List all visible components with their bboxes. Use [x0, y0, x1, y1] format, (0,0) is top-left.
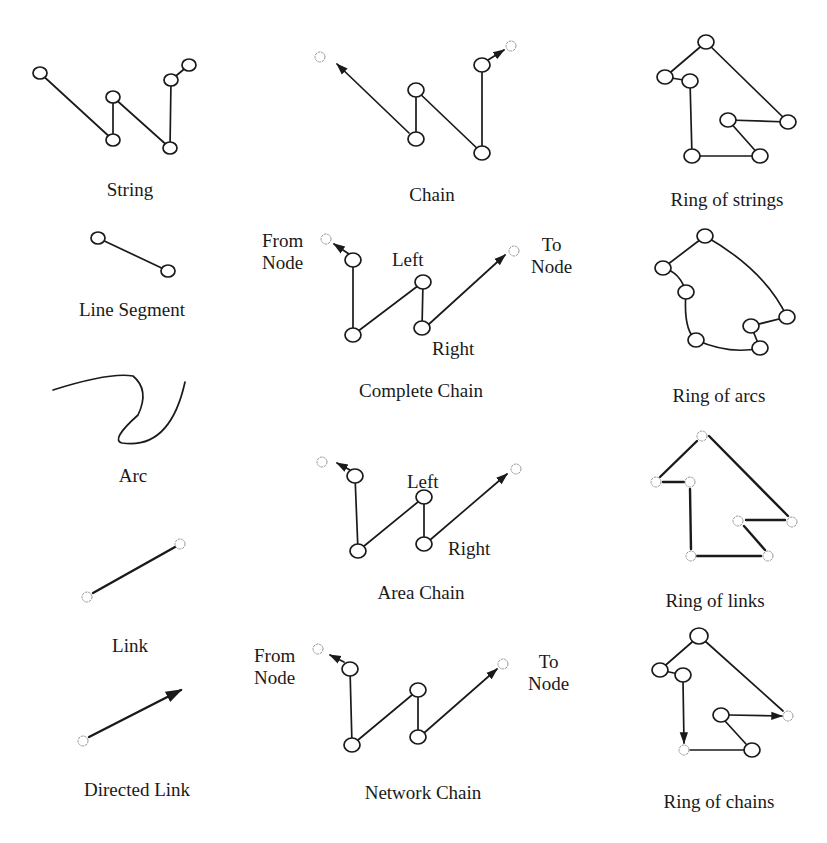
directed-link-figure	[78, 690, 181, 746]
complete-chain-to-node-label: To Node	[531, 234, 572, 278]
ring-of-strings-figure	[657, 35, 796, 163]
network-chain-to-node-label: To Node	[528, 651, 569, 695]
complete-chain-from-node-label: From Node	[262, 230, 303, 274]
caption-string: String	[107, 180, 153, 199]
caption-line-segment: Line Segment	[79, 300, 185, 319]
area-chain-right-label: Right	[448, 539, 490, 558]
caption-ring-of-chains: Ring of chains	[664, 792, 775, 811]
caption-ring-of-arcs: Ring of arcs	[673, 386, 766, 405]
line-segment-figure	[91, 232, 175, 277]
caption-complete-chain: Complete Chain	[359, 381, 483, 400]
spatial-object-diagram	[0, 0, 827, 843]
network-chain-from-node-label: From Node	[254, 645, 295, 689]
caption-directed-link: Directed Link	[84, 780, 190, 799]
caption-ring-of-links: Ring of links	[665, 591, 764, 610]
link-figure	[82, 539, 185, 602]
arc-figure	[53, 375, 185, 443]
area-chain-left-label: Left	[407, 472, 439, 491]
ring-of-links-figure	[651, 431, 797, 561]
caption-chain: Chain	[409, 185, 454, 204]
ring-of-arcs-figure	[655, 229, 795, 355]
ring-of-chains-figure	[652, 628, 793, 757]
chain-figure	[315, 41, 516, 160]
complete-chain-left-label: Left	[392, 250, 424, 269]
caption-arc: Arc	[119, 466, 147, 485]
network-chain-figure	[313, 644, 508, 752]
caption-area-chain: Area Chain	[377, 583, 464, 602]
complete-chain-right-label: Right	[432, 339, 474, 358]
caption-network-chain: Network Chain	[365, 783, 482, 802]
caption-link: Link	[112, 636, 148, 655]
caption-ring-of-strings: Ring of strings	[671, 190, 784, 209]
string-figure	[33, 59, 196, 154]
